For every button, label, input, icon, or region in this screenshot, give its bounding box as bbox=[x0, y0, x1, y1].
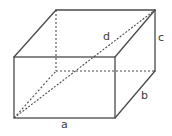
label-b: b bbox=[141, 90, 148, 101]
front-face bbox=[14, 57, 115, 118]
space-diagonal-d bbox=[14, 10, 155, 118]
hidden-bottom-left-edge bbox=[14, 71, 56, 118]
label-d: d bbox=[103, 31, 110, 42]
bottom-right-edge-b bbox=[115, 71, 155, 118]
cuboid-drawing bbox=[0, 0, 172, 136]
top-right-edge bbox=[115, 10, 155, 57]
label-c: c bbox=[158, 32, 164, 43]
cuboid-diagram: d c b a bbox=[0, 0, 172, 136]
top-left-edge bbox=[14, 10, 56, 57]
label-a: a bbox=[61, 119, 68, 130]
